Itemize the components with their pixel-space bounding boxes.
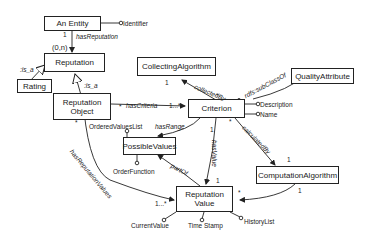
mult-entity-side: 1 <box>63 31 67 38</box>
class-label: Reputation <box>55 58 94 67</box>
mult-criteria-target: 1...* <box>169 102 181 109</box>
class-label: An Entity <box>56 19 88 28</box>
mult-calculated-source: * <box>229 118 232 125</box>
class-label: PossibleValues <box>122 142 176 151</box>
attr-name: Name <box>260 111 277 118</box>
class-label: Value <box>195 199 215 208</box>
attr-current-value: CurrentValue <box>131 222 169 229</box>
class-label: Rating <box>23 82 46 91</box>
uml-diagram: An Entity Reputation Rating Reputation O… <box>0 0 367 241</box>
class-collecting-algorithm: CollectingAlgorithm <box>137 57 216 76</box>
attr-time-stamp: Time Stamp <box>188 222 223 229</box>
class-an-entity: An Entity <box>44 16 101 31</box>
rel-has-value: hasValue <box>211 140 218 167</box>
mult-collecting-source: * <box>216 92 219 99</box>
class-computation-algorithm: ComputationAlgorithm <box>256 166 339 184</box>
class-label: ComputationAlgorithm <box>258 171 337 180</box>
class-reputation-object: Reputation Object <box>53 93 111 120</box>
mult-collecting-target: 1 <box>165 79 169 86</box>
class-label: Criterion <box>201 104 231 113</box>
rel-has-criteria: hasCriteria <box>126 102 157 109</box>
mult-calculated-target: 1 <box>287 156 291 163</box>
class-criterion: Criterion <box>188 99 245 118</box>
attr-ordered-values-list: OrderedValuesList <box>89 123 142 130</box>
class-reputation: Reputation <box>44 53 105 72</box>
attr-description: Description <box>260 101 293 108</box>
mult-criteria-source: * <box>119 103 122 110</box>
rel-has-range: hasRange <box>155 123 185 130</box>
class-label: CollectingAlgorithm <box>142 62 211 71</box>
attr-identifier: Identifier <box>123 20 148 27</box>
attr-order-function: OrderFunction <box>113 168 155 175</box>
class-label: Reputation <box>63 98 102 107</box>
rel-has-reputation: hasReputation <box>76 33 118 40</box>
mult-reputation-side: (0,n) <box>52 44 67 51</box>
rel-is-a-rating: :is_a <box>20 66 34 73</box>
class-quality-attribute: QualityAttribute <box>291 68 354 84</box>
mult-comp-source: 1 <box>298 187 302 194</box>
class-rating: Rating <box>17 79 52 93</box>
attr-history-list: HistoryList <box>244 218 274 225</box>
class-label: QualityAttribute <box>295 72 350 81</box>
mult-has-value-source: 1 <box>210 126 214 133</box>
rel-is-a-object: :is_a <box>84 82 98 89</box>
mult-rep-values-source: * <box>75 119 78 126</box>
mult-has-value-target: 1 <box>216 177 220 184</box>
class-possible-values: PossibleValues <box>123 137 176 155</box>
mult-comp-target: * <box>238 189 241 196</box>
mult-rep-values-target: 1...* <box>155 200 167 207</box>
class-label: Object <box>70 107 93 116</box>
class-label: Reputation <box>185 190 224 199</box>
class-reputation-value: Reputation Value <box>176 186 233 212</box>
